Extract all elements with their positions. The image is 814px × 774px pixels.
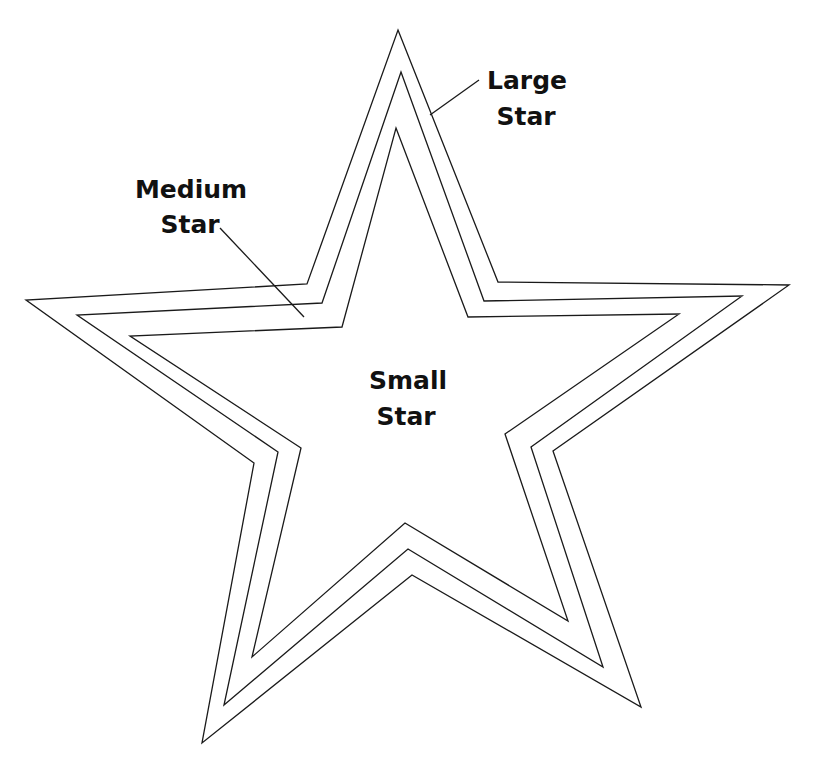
medium-star-label-line2: Star (160, 210, 220, 239)
medium-star-label-line1: Medium (135, 175, 247, 204)
large-star-label-line1: Large (487, 66, 567, 95)
medium-star-leader-line (220, 228, 304, 317)
small-star-label: Small Star (369, 366, 447, 431)
small-star-label-line1: Small (369, 366, 447, 395)
star-diagram: Large Star Medium Star Small Star (0, 0, 814, 774)
large-star-leader-line (430, 80, 479, 115)
large-star-label: Large Star (487, 66, 567, 131)
medium-star-label: Medium Star (135, 175, 247, 239)
small-star-label-line2: Star (376, 402, 436, 431)
large-star-label-line2: Star (496, 102, 556, 131)
